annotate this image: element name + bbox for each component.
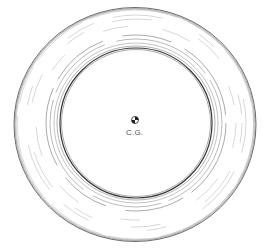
tire-drawing [0, 0, 264, 249]
center-of-gravity-icon [132, 117, 139, 124]
center-of-gravity-label: C.G. [126, 128, 143, 137]
outer-tread-edge [14, 8, 256, 242]
